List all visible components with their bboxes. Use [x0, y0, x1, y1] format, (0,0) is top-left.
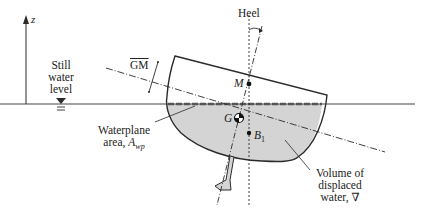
heel-label: Heel — [238, 7, 260, 19]
metacenter-label: M — [234, 77, 244, 89]
center-of-gravity-icon — [235, 114, 244, 123]
displaced-water-region — [167, 104, 322, 162]
waterplane-label-prefix: area, — [103, 136, 128, 148]
center-of-buoyancy-symbol: B — [254, 129, 261, 141]
waterplane-subscript: wp — [135, 142, 144, 151]
center-of-buoyancy-point — [247, 131, 251, 135]
z-axis — [23, 15, 29, 104]
metacenter-point — [247, 82, 252, 87]
waterplane-label: Waterplane area, Awp — [92, 124, 156, 153]
volume-label-line1: Volume of — [310, 167, 370, 179]
still-water-label-line2: water — [44, 71, 78, 83]
still-water-label-line3: level — [44, 83, 78, 95]
z-axis-arrow-icon — [23, 15, 29, 24]
gm-label: GM — [130, 59, 149, 71]
volume-label-line2: displaced — [310, 179, 370, 191]
z-axis-label-text: z — [31, 13, 35, 25]
volume-label-line3: water, ∇ — [310, 191, 370, 203]
keel-fin — [215, 156, 234, 190]
waterplane-label-line1: Waterplane — [92, 124, 156, 136]
still-water-label: Still water level — [44, 59, 78, 95]
still-water-label-line1: Still — [44, 59, 78, 71]
volume-label: Volume of displaced water, ∇ — [310, 167, 370, 203]
waterplane-label-line2: area, Awp — [92, 136, 156, 153]
center-of-buoyancy-subscript: 1 — [261, 135, 265, 144]
gm-dimension — [148, 61, 159, 93]
center-of-gravity-label: G — [224, 112, 232, 124]
center-of-buoyancy-label: B1 — [254, 129, 265, 146]
